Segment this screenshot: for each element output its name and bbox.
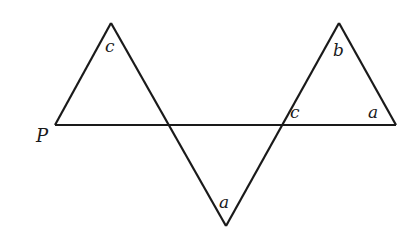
- label-bottom-angle: a: [219, 192, 229, 212]
- label-point-p: P: [35, 125, 49, 146]
- left-triangle-left-side: [55, 23, 111, 125]
- geometry-diagram: c P a c b a: [0, 0, 415, 233]
- label-left-apex-angle: c: [105, 36, 115, 56]
- label-right-apex-angle: b: [333, 40, 344, 60]
- label-right-end-angle: a: [368, 102, 378, 122]
- label-right-cross-angle: c: [290, 102, 300, 122]
